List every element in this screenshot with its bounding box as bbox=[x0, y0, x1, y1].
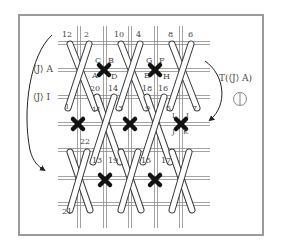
stick-number: 7 bbox=[192, 104, 197, 113]
stick-number: 16 bbox=[158, 84, 168, 93]
marker-letter: G bbox=[146, 56, 152, 65]
right-label: T(⟨J⟩ A) bbox=[219, 73, 252, 83]
stick-number: 18 bbox=[142, 84, 152, 93]
stick-pair-right-bottom bbox=[172, 152, 192, 210]
marker-row3-left bbox=[73, 119, 83, 129]
stick-number: 2 bbox=[84, 30, 89, 39]
stick-number: 9 bbox=[145, 104, 150, 113]
stick-number: 1 bbox=[65, 103, 69, 111]
stick-number: 5 bbox=[166, 104, 171, 113]
stick-number: 20 bbox=[90, 84, 100, 93]
marker-cbad bbox=[99, 65, 109, 75]
stick-number: 8 bbox=[168, 30, 173, 39]
left-label-lower: ⟨J⟩ I bbox=[33, 92, 50, 102]
marker-letter: L bbox=[172, 112, 177, 120]
stick-number: 19 bbox=[108, 156, 118, 165]
marker-letter: C bbox=[95, 56, 101, 65]
stick-number: 21 bbox=[62, 207, 72, 216]
stick-number: 13 bbox=[92, 156, 102, 165]
stick-number: 22 bbox=[80, 137, 90, 146]
circled-vertical-line-icon bbox=[234, 93, 247, 106]
marker-gfeh bbox=[150, 65, 160, 75]
stick-number: 4 bbox=[136, 30, 141, 39]
marker-letter: D bbox=[111, 72, 117, 81]
marker-letter: F bbox=[159, 56, 165, 65]
marker-letter: J bbox=[172, 128, 175, 136]
stick-number: 6 bbox=[188, 30, 193, 39]
marker-letter: A bbox=[92, 71, 98, 80]
left-label-upper: ⟨J⟩ A bbox=[33, 64, 53, 74]
stick-number: 3 bbox=[118, 104, 123, 113]
stick-pair-middle-bottom bbox=[121, 152, 141, 210]
stick-pair-22-21 bbox=[70, 152, 90, 210]
marker-letter: I bbox=[186, 112, 189, 120]
stick-number: 14 bbox=[108, 84, 118, 93]
stick-number: 11 bbox=[92, 106, 101, 114]
stick-number: 12 bbox=[62, 30, 72, 39]
stick-number: 10 bbox=[114, 30, 124, 39]
marker-letter: B bbox=[108, 56, 114, 65]
stick-lattice-diagram: ⟨J⟩ A ⟨J⟩ I T(⟨J⟩ A) 12 2 10 4 8 6 20 14… bbox=[0, 0, 282, 250]
marker-row3-middle bbox=[125, 119, 135, 129]
marker-letter: E bbox=[144, 71, 150, 80]
left-curved-arrow bbox=[27, 35, 52, 170]
right-curved-arrow bbox=[205, 61, 222, 120]
marker-letter: K bbox=[183, 128, 188, 136]
stick-number: 17 bbox=[161, 156, 171, 165]
marker-letter: H bbox=[163, 72, 170, 81]
stick-number: 15 bbox=[141, 156, 151, 165]
